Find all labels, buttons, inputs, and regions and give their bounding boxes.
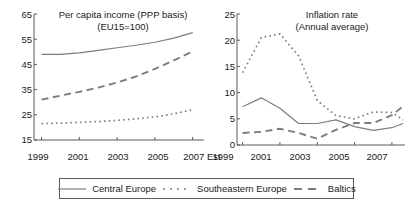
series-line: [42, 33, 193, 55]
legend-entry-central-europe: Central Europe: [57, 183, 156, 194]
series-line: [42, 110, 193, 124]
series-line: [243, 34, 404, 120]
legend-entry-baltics: Baltics: [293, 183, 356, 194]
series-legend: Central Europe Southeastern Europe Balti…: [59, 178, 354, 199]
legend-swatch-dashed-icon: [293, 185, 323, 193]
chart-panel-inflation-rate: Inflation rate (Annual average) 0 5 10 1…: [205, 0, 413, 170]
legend-label: Southeastern Europe: [197, 183, 287, 194]
legend-label: Central Europe: [92, 183, 156, 194]
chart-figure: Per capita income (PPP basis) (EU15=100)…: [0, 0, 413, 207]
chart-panel-per-capita-income: Per capita income (PPP basis) (EU15=100)…: [0, 0, 212, 170]
legend-swatch-solid-icon: [57, 185, 87, 193]
series-line: [42, 51, 193, 99]
plot-area-inflation-rate: [205, 0, 413, 170]
series-line: [243, 98, 404, 130]
legend-entry-southeastern-europe: Southeastern Europe: [162, 183, 287, 194]
legend-label: Baltics: [328, 183, 356, 194]
legend-swatch-dotted-icon: [162, 185, 192, 193]
plot-area-per-capita-income: [0, 0, 212, 170]
